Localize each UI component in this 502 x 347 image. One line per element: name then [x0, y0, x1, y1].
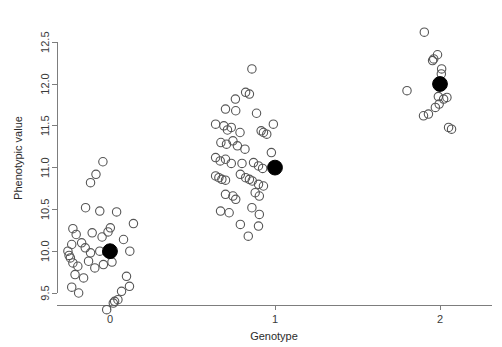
- data-point: [419, 112, 427, 120]
- data-point: [222, 140, 230, 148]
- data-point: [420, 28, 428, 36]
- genotype-mean-point: [268, 160, 283, 175]
- data-point: [125, 282, 133, 290]
- data-point: [99, 260, 107, 268]
- data-point: [79, 274, 87, 282]
- data-point: [122, 272, 130, 280]
- x-axis-tick-label: 0: [107, 313, 113, 325]
- data-point: [74, 289, 82, 297]
- data-point: [424, 110, 432, 118]
- y-axis-title: Phenotypic value: [12, 116, 24, 200]
- data-point: [241, 145, 249, 153]
- x-axis-tick-label: 1: [272, 313, 278, 325]
- data-point: [117, 287, 125, 295]
- x-axis-tick-label: 2: [437, 313, 443, 325]
- phenotype-genotype-scatter: 9.510.010.511.011.512.012.5012 Phenotypi…: [0, 0, 502, 347]
- y-axis-tick-label: 11.0: [39, 157, 51, 178]
- data-point: [403, 86, 411, 94]
- y-axis-tick-label: 12.0: [39, 73, 51, 94]
- data-point: [221, 155, 229, 163]
- data-point: [238, 159, 246, 167]
- data-point: [255, 210, 263, 218]
- data-point: [248, 204, 256, 212]
- data-point: [232, 107, 240, 115]
- y-axis-tick-label: 9.5: [39, 285, 51, 300]
- data-point: [92, 170, 100, 178]
- data-point: [267, 148, 275, 156]
- y-axis-tick-label: 12.5: [39, 31, 51, 52]
- data-point: [84, 257, 92, 265]
- data-point: [126, 247, 134, 255]
- data-point: [259, 182, 267, 190]
- data-point: [211, 120, 219, 128]
- data-point: [217, 138, 225, 146]
- data-point: [221, 105, 229, 113]
- scatter-plot-figure: 9.510.010.511.011.512.012.5012 Phenotypi…: [0, 0, 502, 347]
- y-axis-tick-label: 11.5: [39, 116, 51, 137]
- data-point: [254, 222, 262, 230]
- data-point: [112, 208, 120, 216]
- data-point: [231, 95, 239, 103]
- genotype-mean-point: [103, 244, 118, 259]
- data-point: [269, 120, 277, 128]
- data-point: [236, 128, 244, 136]
- data-point: [129, 219, 137, 227]
- data-point: [99, 158, 107, 166]
- y-axis-tick-label: 10.5: [39, 199, 51, 220]
- data-point: [225, 209, 233, 217]
- data-point: [108, 258, 116, 266]
- data-point: [96, 207, 104, 215]
- data-point: [244, 232, 252, 240]
- data-point: [216, 207, 224, 215]
- data-point: [88, 229, 96, 237]
- data-point: [86, 178, 94, 186]
- data-point: [248, 65, 256, 73]
- genotype-mean-point: [433, 77, 448, 92]
- data-point: [447, 125, 455, 133]
- x-axis-title: Genotype: [250, 330, 298, 342]
- data-point: [81, 204, 89, 212]
- data-point: [91, 264, 99, 272]
- data-point: [71, 270, 79, 278]
- data-point: [227, 159, 235, 167]
- data-points-group: [64, 28, 456, 314]
- data-point: [68, 283, 76, 291]
- data-point: [229, 137, 237, 145]
- data-point: [86, 249, 94, 257]
- y-axis-tick-label: 10.0: [39, 240, 51, 261]
- genotype-mean-points-group: [103, 77, 448, 259]
- data-point: [252, 109, 260, 117]
- data-point: [119, 235, 127, 243]
- data-point: [236, 220, 244, 228]
